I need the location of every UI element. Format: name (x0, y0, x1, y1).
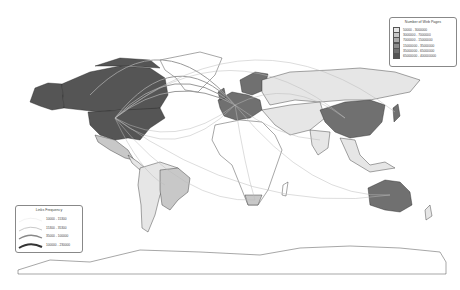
region-canada (62, 66, 168, 113)
web-pages-legend-title: Number of Web Pages (390, 20, 456, 24)
legend-label: 15300 - 35300 (46, 226, 67, 230)
legend-swatch (393, 53, 400, 59)
link-arc-sample (16, 215, 46, 223)
links-legend-item: 15300 - 35300 (16, 224, 82, 233)
region-africa (212, 120, 282, 205)
links-legend-item: 10000 - 15300 (16, 215, 82, 224)
legend-label: 3000000 - 7000000 (403, 33, 431, 37)
links-legend-title: Links Frequency (16, 208, 82, 212)
web-pages-legend: Number of Web Pages 50000 - 300000030000… (389, 17, 457, 67)
legend-label: 100000 - 230000 (46, 243, 70, 247)
link-arc-sample (16, 224, 46, 232)
region-japan (393, 104, 400, 122)
legend-label: 35000 - 100000 (46, 234, 68, 238)
links-legend-item: 35000 - 100000 (16, 232, 82, 241)
region-alaska (30, 83, 64, 110)
links-frequency-legend: Links Frequency 10000 - 1530015300 - 353… (15, 205, 83, 253)
region-russia (262, 68, 420, 105)
legend-label: 35000000 - 65000000 (403, 49, 434, 53)
link-arc-sample (16, 232, 46, 240)
links-legend-item: 100000 - 230000 (16, 241, 82, 250)
legend-label: 15000000 - 35000000 (403, 44, 434, 48)
legend-label: 10000 - 15300 (46, 217, 67, 221)
legend-label: 50000 - 3000000 (403, 28, 427, 32)
region-new-zealand (425, 205, 432, 220)
region-brazil (160, 168, 190, 210)
region-southeast-asia (340, 138, 395, 172)
region-india (310, 130, 330, 155)
legend-label: 65000000 - 400000000 (403, 54, 436, 58)
link-arc-sample (16, 241, 46, 249)
region-australia (368, 180, 412, 212)
region-usa (88, 108, 165, 140)
region-middle-east (262, 102, 325, 135)
web-pages-legend-item: 65000000 - 400000000 (393, 53, 456, 58)
legend-label: 7000000 - 15000000 (403, 38, 432, 42)
